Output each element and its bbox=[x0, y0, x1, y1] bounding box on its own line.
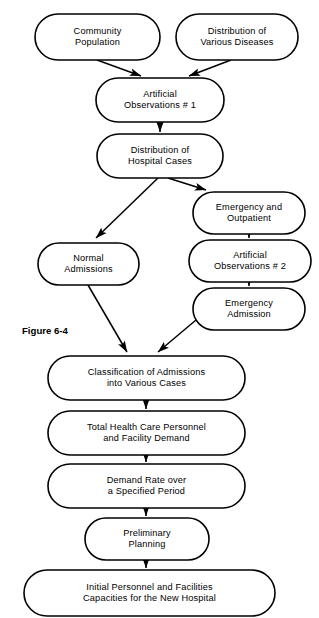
nodes-layer: CommunityPopulationDistribution ofVariou… bbox=[24, 14, 311, 616]
node-label-classification-of-admissions-line-2: into Various Cases bbox=[107, 378, 186, 388]
node-label-emergency-and-outpatient-line-2: Outpatient bbox=[227, 213, 271, 223]
figure-caption: Figure 6-4 bbox=[22, 325, 69, 336]
figure-6-4-flowchart: CommunityPopulationDistribution ofVariou… bbox=[0, 0, 319, 618]
node-label-demand-rate-over-period-line-1: Demand Rate over bbox=[107, 475, 187, 485]
node-label-distribution-hospital-cases-line-2: Hospital Cases bbox=[128, 156, 192, 166]
node-label-artificial-observations-2-line-2: Observations # 2 bbox=[214, 261, 286, 271]
node-label-preliminary-planning-line-1: Preliminary bbox=[123, 528, 171, 538]
node-label-initial-personnel-facilities-line-1: Initial Personnel and Facilities bbox=[86, 582, 213, 592]
node-artificial-observations-2: ArtificialObservations # 2 bbox=[189, 240, 311, 282]
node-label-distribution-hospital-cases-line-1: Distribution of bbox=[131, 145, 190, 155]
node-normal-admissions: NormalAdmissions bbox=[38, 243, 139, 285]
node-label-emergency-admission-line-1: Emergency bbox=[225, 298, 273, 308]
node-artificial-observations-1: ArtificialObservations # 1 bbox=[96, 78, 224, 122]
node-label-classification-of-admissions-line-1: Classification of Admissions bbox=[88, 367, 206, 377]
node-label-artificial-observations-1-line-1: Artificial bbox=[143, 89, 177, 99]
node-label-emergency-admission-line-2: Admission bbox=[227, 309, 271, 319]
node-emergency-and-outpatient: Emergency andOutpatient bbox=[193, 192, 305, 234]
flowchart-canvas: CommunityPopulationDistribution ofVariou… bbox=[0, 0, 319, 618]
node-label-demand-rate-over-period-line-2: a Specified Period bbox=[108, 486, 185, 496]
node-label-normal-admissions-line-2: Admissions bbox=[64, 264, 113, 274]
edge-hospital-cases-to-emergency bbox=[168, 178, 206, 190]
node-label-artificial-observations-1-line-2: Observations # 1 bbox=[124, 100, 196, 110]
edge-emergency-admission-to-classification bbox=[158, 320, 196, 352]
node-demand-rate-over-period: Demand Rate overa Specified Period bbox=[48, 464, 245, 508]
node-label-normal-admissions-line-1: Normal bbox=[73, 253, 104, 263]
node-label-emergency-and-outpatient-line-1: Emergency and bbox=[216, 202, 282, 212]
node-distribution-various-diseases: Distribution ofVarious Diseases bbox=[176, 14, 298, 60]
edge-diseases-to-ao1 bbox=[189, 60, 231, 76]
node-emergency-admission: EmergencyAdmission bbox=[193, 288, 305, 330]
node-label-initial-personnel-facilities-line-2: Capacities for the New Hospital bbox=[83, 593, 216, 603]
edge-hospital-cases-to-normal bbox=[96, 178, 158, 238]
node-total-health-care-personnel: Total Health Care Personneland Facility … bbox=[48, 411, 245, 455]
node-label-preliminary-planning-line-2: Planning bbox=[129, 539, 166, 549]
node-classification-of-admissions: Classification of Admissionsinto Various… bbox=[48, 356, 245, 400]
node-label-distribution-various-diseases-line-1: Distribution of bbox=[208, 26, 267, 36]
node-community-population: CommunityPopulation bbox=[35, 14, 160, 60]
node-label-total-health-care-personnel-line-2: and Facility Demand bbox=[103, 433, 190, 443]
edge-community-to-ao1 bbox=[97, 60, 141, 76]
node-initial-personnel-facilities: Initial Personnel and FacilitiesCapaciti… bbox=[24, 570, 275, 616]
node-distribution-hospital-cases: Distribution ofHospital Cases bbox=[97, 134, 223, 178]
node-label-community-population-line-1: Community bbox=[74, 26, 122, 36]
node-label-artificial-observations-2-line-1: Artificial bbox=[233, 250, 267, 260]
node-preliminary-planning: PreliminaryPlanning bbox=[85, 518, 209, 560]
node-label-community-population-line-2: Population bbox=[75, 37, 120, 47]
node-label-total-health-care-personnel-line-1: Total Health Care Personnel bbox=[87, 422, 206, 432]
node-label-distribution-various-diseases-line-2: Various Diseases bbox=[200, 37, 273, 47]
edge-normal-to-classification bbox=[88, 285, 127, 352]
